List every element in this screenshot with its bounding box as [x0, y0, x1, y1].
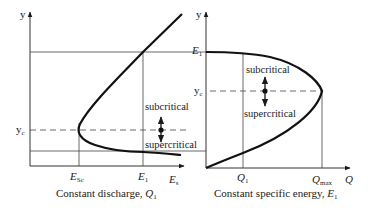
left-y-axis-label: y — [20, 8, 26, 20]
left-yc-label: yc — [16, 123, 25, 137]
left-critical-point — [158, 127, 163, 132]
right-y-axis-label: y — [196, 8, 202, 20]
right-x-axis-label: Q — [345, 173, 353, 185]
right-supercritical-label: supercritical — [244, 108, 296, 119]
right-critical-point — [262, 88, 267, 93]
right-caption: Constant specific energy, E1 — [214, 187, 338, 201]
right-qmax-label: Qmax — [312, 173, 333, 187]
right-subcritical-label: subcritical — [246, 64, 290, 75]
specific-energy-curve — [79, 14, 182, 155]
right-yc-label: yc — [194, 84, 203, 98]
specific-energy-diagram: y yc ESc E1 Es subcritical supercritical… — [0, 0, 371, 211]
right-q1-label: Q1 — [237, 171, 249, 185]
left-x-axis-label: Es — [168, 173, 179, 187]
left-subcritical-label: subcritical — [145, 101, 189, 112]
left-supercritical-label: supercritical — [145, 139, 197, 150]
left-e1-label: E1 — [137, 170, 149, 184]
right-panel-discharge-curve: y E1 yc Q1 Qmax Q subcritical supercriti… — [191, 8, 353, 201]
right-e1-label: E1 — [191, 44, 203, 58]
left-esc-label: ESc — [69, 170, 84, 184]
left-panel-specific-energy-curve: y yc ESc E1 Es subcritical supercritical… — [16, 8, 206, 201]
left-caption: Constant discharge, Q1 — [56, 187, 157, 201]
